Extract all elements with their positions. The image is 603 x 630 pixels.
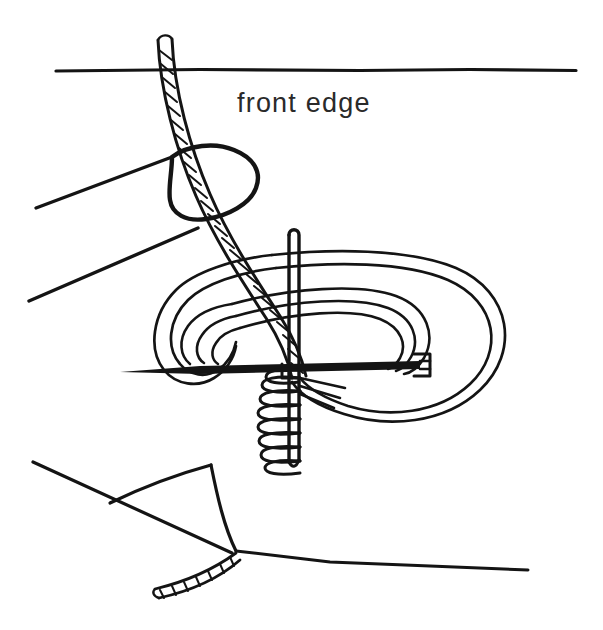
thumb-outline [169, 146, 258, 220]
front-edge-label: front edge [237, 88, 371, 118]
thread-loop-left [154, 255, 276, 384]
needlework-diagram: front edge [0, 0, 603, 630]
coil-wrap [258, 369, 345, 474]
front-edge-line [56, 70, 576, 72]
lower-fabric-edge [236, 551, 528, 570]
figure-canvas: front edge [0, 0, 603, 630]
fabric-fold [33, 462, 236, 553]
finger-outline [29, 157, 198, 301]
thread-loop-right-inner [232, 289, 429, 374]
working-thread [158, 35, 306, 378]
thread-tail [153, 553, 240, 598]
